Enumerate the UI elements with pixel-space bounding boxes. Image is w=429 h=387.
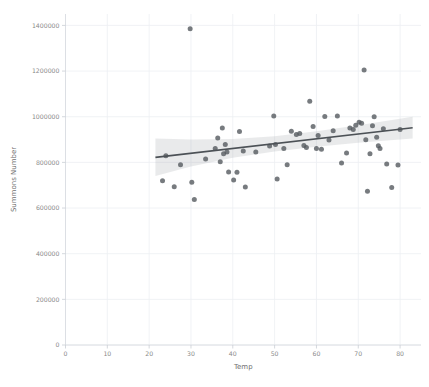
data-point xyxy=(241,148,246,153)
data-point xyxy=(395,162,400,167)
data-point xyxy=(215,135,220,140)
x-tick-label: 40 xyxy=(229,350,237,357)
x-axis-title: Temp xyxy=(233,363,253,371)
y-tick-label: 1200000 xyxy=(32,67,60,74)
data-point xyxy=(311,124,316,129)
data-point xyxy=(237,129,242,134)
y-tick-label: 1000000 xyxy=(32,113,60,120)
data-point xyxy=(243,185,248,190)
x-tick-label: 70 xyxy=(354,350,362,357)
data-point xyxy=(363,137,368,142)
data-point xyxy=(285,162,290,167)
data-point xyxy=(189,180,194,185)
data-point xyxy=(192,197,197,202)
data-point xyxy=(188,26,193,31)
x-tick-label: 60 xyxy=(313,350,321,357)
data-point xyxy=(331,128,336,133)
x-tick-label: 50 xyxy=(271,350,279,357)
x-tick-label: 80 xyxy=(396,350,404,357)
chart-figure: 01020304050607080 0200000400000600000800… xyxy=(0,0,429,387)
data-point xyxy=(378,146,383,151)
data-point xyxy=(359,121,364,126)
y-axis-title: Summons Number xyxy=(10,147,18,212)
y-tick-label: 800000 xyxy=(36,159,60,166)
data-point xyxy=(224,150,229,155)
data-point xyxy=(234,170,239,175)
data-point xyxy=(344,151,349,156)
data-point xyxy=(226,169,231,174)
y-tick-label: 0 xyxy=(56,341,60,348)
y-tick-label: 600000 xyxy=(36,204,60,211)
y-tick-label: 400000 xyxy=(36,250,60,257)
x-tick-label: 0 xyxy=(64,350,68,357)
data-point xyxy=(365,189,370,194)
data-point xyxy=(304,145,309,150)
data-point xyxy=(322,114,327,119)
data-point xyxy=(253,149,258,154)
x-tick-label: 30 xyxy=(187,350,195,357)
data-point xyxy=(374,135,379,140)
x-tick-label: 10 xyxy=(103,350,111,357)
data-point xyxy=(203,156,208,161)
data-point xyxy=(289,129,294,134)
data-point xyxy=(335,114,340,119)
scatter-plot-svg: 01020304050607080 0200000400000600000800… xyxy=(0,0,429,387)
y-tick-label: 200000 xyxy=(36,296,60,303)
data-point xyxy=(372,114,377,119)
data-point xyxy=(389,185,394,190)
data-point xyxy=(275,177,280,182)
data-point xyxy=(281,146,286,151)
data-point xyxy=(160,178,165,183)
data-point xyxy=(271,114,276,119)
data-point xyxy=(319,147,324,152)
data-point xyxy=(172,184,177,189)
data-point xyxy=(370,123,375,128)
figure-background xyxy=(0,0,429,387)
data-point xyxy=(316,133,321,138)
x-tick-label: 20 xyxy=(145,350,153,357)
data-point xyxy=(220,125,225,130)
data-point xyxy=(384,161,389,166)
data-point xyxy=(231,177,236,182)
data-point xyxy=(362,67,367,72)
data-point xyxy=(297,131,302,136)
data-point xyxy=(367,151,372,156)
data-point xyxy=(218,159,223,164)
y-tick-label: 1400000 xyxy=(32,22,60,29)
data-point xyxy=(314,146,319,151)
data-point xyxy=(351,127,356,132)
data-point xyxy=(307,99,312,104)
data-point xyxy=(178,162,183,167)
data-point xyxy=(223,142,228,147)
data-point xyxy=(339,161,344,166)
